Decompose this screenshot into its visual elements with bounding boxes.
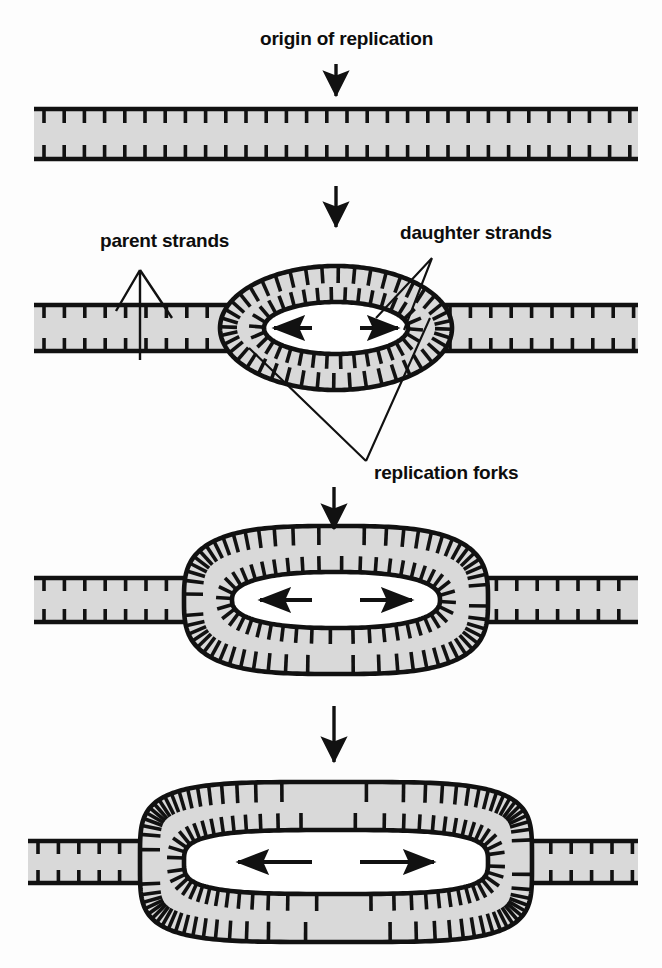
base-tooth [469, 585, 488, 586]
base-tooth [441, 784, 442, 804]
base-tooth [306, 268, 308, 285]
base-tooth [425, 783, 426, 803]
stage-2-small-bubble [34, 266, 638, 390]
base-tooth [461, 919, 463, 939]
base-tooth [512, 888, 532, 890]
base-tooth [167, 857, 184, 858]
duplex-band [466, 578, 638, 622]
base-tooth [389, 559, 391, 575]
base-tooth [455, 785, 457, 805]
base-tooth [317, 372, 318, 389]
base-tooth [419, 814, 420, 831]
base-tooth [252, 893, 253, 910]
base-tooth [226, 891, 228, 908]
label-parent-strands: parent strands [100, 230, 229, 252]
stage-3-medium-bubble [34, 526, 638, 674]
base-tooth [216, 598, 232, 599]
base-tooth [237, 783, 238, 803]
base-tooth [360, 556, 361, 572]
base-tooth [302, 557, 303, 573]
stage-4-large-bubble [28, 782, 638, 942]
base-tooth [364, 371, 366, 388]
base-tooth [222, 784, 224, 804]
base-tooth [438, 891, 440, 908]
base-tooth [375, 557, 376, 573]
dna-replication-diagram: origin of replication parent strands dau… [0, 0, 662, 968]
base-tooth [432, 815, 433, 832]
dna-replication-illustration [0, 0, 662, 968]
base-tooth [435, 329, 452, 330]
base-tooth [378, 655, 379, 674]
base-tooth [411, 652, 413, 671]
base-tooth [383, 626, 385, 642]
base-tooth [268, 893, 269, 910]
base-tooth [369, 627, 370, 643]
base-tooth [185, 580, 204, 582]
label-origin-of-replication: origin of replication [260, 28, 433, 50]
base-tooth [232, 816, 234, 833]
bubble-inner-hole [184, 830, 488, 894]
base-tooth [322, 266, 323, 283]
label-replication-forks: replication forks [374, 462, 518, 484]
base-tooth [285, 654, 286, 673]
base-tooth [396, 625, 398, 641]
base-tooth [449, 890, 451, 907]
base-tooth [444, 816, 446, 833]
base-tooth [259, 529, 261, 548]
base-tooth [287, 558, 289, 574]
base-tooth [220, 327, 237, 328]
base-tooth [488, 852, 505, 854]
base-tooth [386, 527, 387, 546]
base-tooth [209, 785, 211, 805]
stage-1-duplex [34, 109, 638, 159]
duplex-band [34, 578, 206, 622]
base-tooth [402, 528, 404, 547]
base-tooth [311, 628, 312, 644]
base-tooth [281, 626, 283, 642]
base-tooth [440, 602, 456, 603]
base-tooth [434, 921, 435, 941]
base-tooth [184, 614, 203, 615]
base-tooth [293, 526, 294, 545]
base-tooth [296, 627, 297, 643]
label-daughter-strands: daughter strands [400, 222, 552, 244]
base-tooth [260, 814, 261, 831]
base-tooth [141, 834, 161, 836]
base-tooth [426, 892, 427, 909]
base-tooth [468, 617, 487, 619]
base-tooth [268, 653, 270, 672]
base-tooth [140, 883, 160, 884]
base-tooth [274, 560, 276, 576]
base-tooth [512, 840, 532, 841]
base-tooth [353, 267, 354, 284]
base-tooth [449, 920, 451, 940]
base-tooth [245, 815, 246, 832]
base-tooth [404, 814, 405, 831]
base-tooth [396, 654, 397, 673]
base-tooth [246, 921, 247, 941]
base-tooth [238, 892, 239, 909]
base-tooth [229, 921, 230, 941]
base-tooth [349, 373, 350, 390]
base-tooth [215, 919, 217, 939]
base-tooth [274, 528, 275, 547]
base-tooth [221, 817, 223, 834]
base-tooth [488, 866, 505, 867]
base-tooth [167, 869, 184, 871]
base-tooth [411, 893, 412, 910]
